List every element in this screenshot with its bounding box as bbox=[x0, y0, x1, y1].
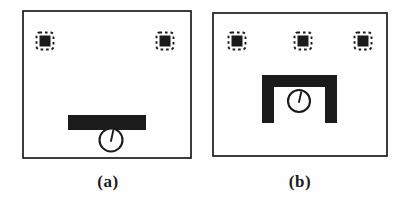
obstacle-bar bbox=[68, 115, 146, 130]
landmark-filled-square-icon bbox=[160, 36, 171, 47]
figure-canvas: (a) (b) bbox=[0, 0, 406, 209]
panel-b-caption: (b) bbox=[268, 172, 332, 192]
panel-b bbox=[213, 13, 387, 156]
landmark-filled-square-icon bbox=[298, 36, 309, 47]
landmark-filled-square-icon bbox=[232, 36, 243, 47]
figure-drawing bbox=[0, 0, 406, 209]
panel-a bbox=[23, 11, 191, 158]
landmark-filled-square-icon bbox=[358, 36, 369, 47]
panel-a-caption: (a) bbox=[76, 172, 140, 192]
landmark-filled-square-icon bbox=[40, 36, 51, 47]
